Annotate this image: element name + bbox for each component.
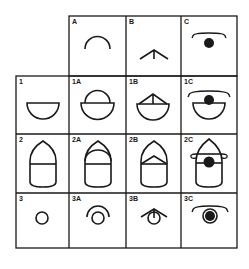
small-circle-arc-icon: [69, 193, 126, 248]
cell-3: 3: [16, 193, 69, 248]
cell-3B: 3B: [126, 193, 181, 248]
half-bowl-brim-dot-icon: [181, 76, 237, 134]
cell-A: A: [69, 16, 126, 76]
half-bowl-icon: [16, 76, 69, 134]
half-bowl-arc-icon: [69, 76, 126, 134]
cell-B: B: [126, 16, 181, 76]
cell-3C: 3C: [181, 193, 237, 248]
cell-1B: 1B: [126, 76, 181, 134]
bullet-chevron-icon: [126, 134, 181, 193]
half-bowl-chevron-icon: [126, 76, 181, 134]
cell-3A: 3A: [69, 193, 126, 248]
bullet-icon: [16, 134, 69, 193]
cell-2A: 2A: [69, 134, 126, 193]
bullet-brim-dot-icon: [181, 134, 237, 193]
cell-2B: 2B: [126, 134, 181, 193]
cell-1A: 1A: [69, 76, 126, 134]
small-circle-chevron-icon: [126, 193, 181, 248]
cell-C: C: [181, 16, 237, 76]
chevron-stem-icon: [126, 16, 181, 76]
small-circle-icon: [16, 193, 69, 248]
brim-dot-icon: [181, 16, 237, 76]
cell-2C: 2C: [181, 134, 237, 193]
cell-1: 1: [16, 76, 69, 134]
arc-icon: [69, 16, 126, 76]
cell-2: 2: [16, 134, 69, 193]
small-circle-brim-dot-icon: [181, 193, 237, 248]
bullet-arc-icon: [69, 134, 126, 193]
cell-1C: 1C: [181, 76, 237, 134]
